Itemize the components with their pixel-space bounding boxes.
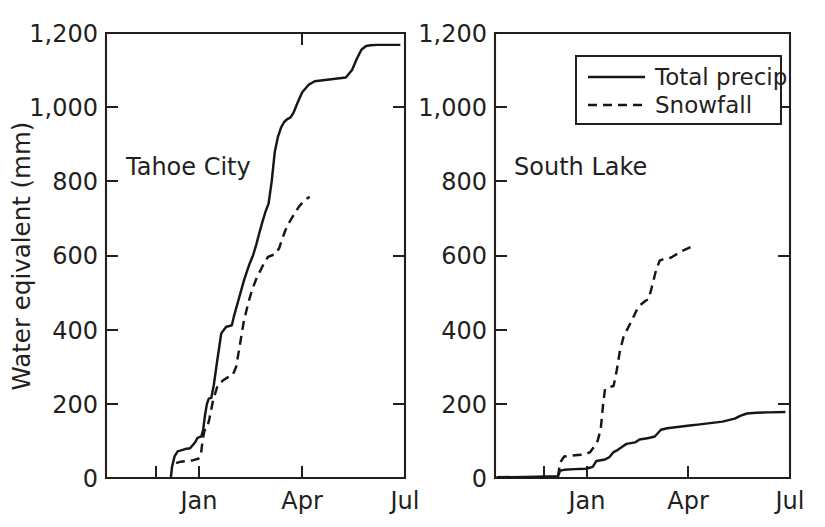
y-tick-label-1200-left: 1,200 [29, 20, 98, 48]
panel-title-tahoe-city: Tahoe City [125, 153, 251, 181]
y-tick-label-0-left: 0 [83, 465, 98, 493]
legend: Total precip Snowfall [576, 56, 787, 124]
y-tick-label-200-left: 200 [52, 391, 98, 419]
x-tick-label-jan-left: Jan [179, 487, 218, 515]
y-tick-label-600-right: 600 [441, 242, 487, 270]
panel-tahoe-city: Water eqivalent (mm) 1,200 1,000 800 600… [7, 20, 419, 515]
x-tick-label-jul-right: Jul [774, 487, 805, 515]
figure-root: Water eqivalent (mm) 1,200 1,000 800 600… [0, 0, 825, 527]
y-tick-label-1000-left: 1,000 [29, 94, 98, 122]
legend-label-total-precip: Total precip [654, 64, 787, 90]
series-total-precip-south-lake [497, 412, 786, 477]
panel-title-south-lake: South Lake [514, 153, 647, 181]
x-tick-label-apr-right: Apr [667, 487, 709, 515]
y-tick-label-600-left: 600 [52, 242, 98, 270]
axis-frame-left-panel [106, 33, 405, 478]
x-tick-label-jul-left: Jul [389, 487, 420, 515]
chart-canvas: Water eqivalent (mm) 1,200 1,000 800 600… [0, 0, 825, 527]
series-snowfall-tahoe [176, 197, 310, 463]
y-tick-label-1200-right: 1,200 [418, 20, 487, 48]
series-total-precip-tahoe [171, 45, 401, 478]
y-tick-label-800-right: 800 [441, 168, 487, 196]
x-tick-label-apr-left: Apr [281, 487, 323, 515]
y-tick-label-400-right: 400 [441, 317, 487, 345]
y-tick-label-800-left: 800 [52, 168, 98, 196]
series-snowfall-south-lake [558, 245, 695, 476]
legend-label-snowfall: Snowfall [655, 92, 752, 118]
y-tick-label-0-right: 0 [472, 465, 487, 493]
y-tick-label-200-right: 200 [441, 391, 487, 419]
y-axis-title: Water eqivalent (mm) [7, 122, 36, 391]
y-tick-label-400-left: 400 [52, 317, 98, 345]
y-tick-label-1000-right: 1,000 [418, 94, 487, 122]
x-tick-label-jan-right: Jan [567, 487, 606, 515]
panel-south-lake: 1,200 1,000 800 600 400 200 0 [418, 20, 804, 515]
